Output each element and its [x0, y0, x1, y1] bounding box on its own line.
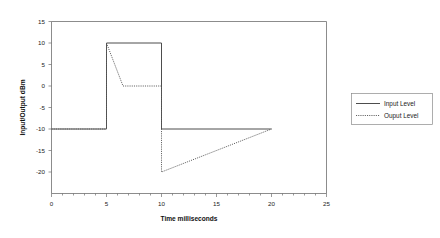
chart-legend: Input Level Ouput Level	[352, 94, 433, 125]
y-tick-label: 5	[42, 61, 46, 68]
y-tick-label: -10	[36, 125, 46, 132]
y-tick-label: -20	[36, 168, 46, 175]
legend-box	[352, 94, 433, 125]
y-tick-label: 10	[38, 39, 45, 46]
x-tick-label: 5	[105, 200, 109, 207]
x-axis-title: Time milliseconds	[160, 215, 217, 222]
x-tick-label: 0	[50, 200, 54, 207]
legend-label: Ouput Level	[384, 112, 418, 120]
y-axis-title: Input/Output dBm	[19, 79, 27, 135]
legend-label: Input Level	[384, 100, 415, 108]
chart-figure: 15 10 5 0 -5 -10 -15 -20 Input/Output dB…	[0, 0, 440, 238]
y-tick-label: 0	[42, 82, 46, 89]
x-tick-label: 15	[213, 200, 220, 207]
y-tick-label: 15	[38, 18, 45, 25]
y-tick-label: -5	[39, 104, 45, 111]
y-tick-label: -15	[36, 147, 46, 154]
x-tick-label: 25	[323, 200, 330, 207]
x-tick-label: 10	[158, 200, 165, 207]
x-tick-label: 20	[268, 200, 275, 207]
